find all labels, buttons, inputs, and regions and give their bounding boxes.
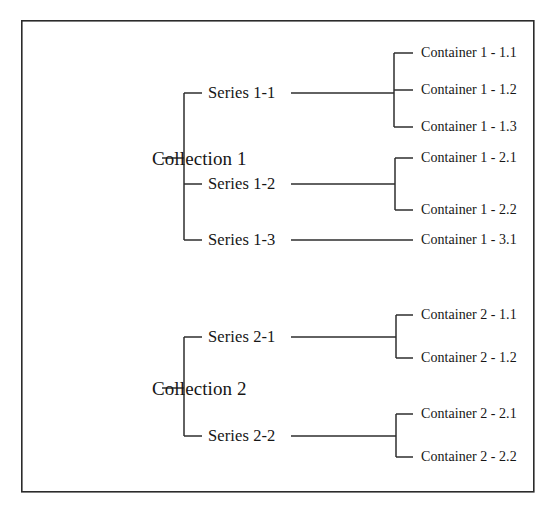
mid-node-series-1-3: Series 1-3 [208, 232, 275, 249]
leaf-node-container-1-2-1: Container 1 - 2.1 [421, 151, 517, 165]
hierarchy-diagram: Collection 1Series 1-1Container 1 - 1.1C… [0, 0, 555, 514]
leaf-node-container-1-3-1: Container 1 - 3.1 [421, 233, 517, 247]
leaf-node-container-2-1-2: Container 2 - 1.2 [421, 351, 517, 365]
root-node-collection-2: Collection 2 [152, 379, 247, 398]
mid-node-series-1-2: Series 1-2 [208, 176, 275, 193]
leaf-node-container-1-1-1: Container 1 - 1.1 [421, 46, 517, 60]
mid-node-series-1-1: Series 1-1 [208, 85, 275, 102]
tree-edges-canvas [0, 0, 555, 514]
leaf-node-container-2-1-1: Container 2 - 1.1 [421, 308, 517, 322]
leaf-node-container-1-1-3: Container 1 - 1.3 [421, 120, 517, 134]
mid-node-series-2-1: Series 2-1 [208, 329, 275, 346]
leaf-node-container-2-2-2: Container 2 - 2.2 [421, 450, 517, 464]
leaf-node-container-1-1-2: Container 1 - 1.2 [421, 83, 517, 97]
leaf-node-container-2-2-1: Container 2 - 2.1 [421, 407, 517, 421]
root-node-collection-1: Collection 1 [152, 149, 247, 168]
leaf-node-container-1-2-2: Container 1 - 2.2 [421, 203, 517, 217]
mid-node-series-2-2: Series 2-2 [208, 428, 275, 445]
